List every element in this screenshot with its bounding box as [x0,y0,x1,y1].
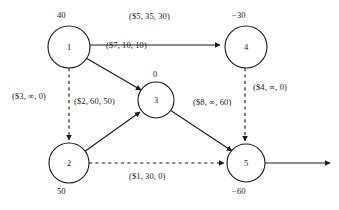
node-3-supply: 0 [153,70,157,79]
node-2[interactable]: 2 [49,143,89,183]
node-3-label: 3 [154,95,158,105]
node-4-supply: −30 [232,11,246,20]
edge-1-to-4-label: ($5, 35, 30) [129,12,170,21]
edge-3-to-5-label: ($8, ∞, 60) [193,98,231,107]
node-5-supply: −60 [232,187,246,196]
node-5-label: 5 [244,158,248,168]
node-4[interactable]: 4 [225,26,267,68]
node-1-label: 1 [67,42,71,52]
node-5[interactable]: 5 [227,144,265,182]
edge-4-to-5-label: ($4, ∞, 0) [253,83,287,92]
node-3[interactable]: 3 [138,82,174,118]
node-2-supply: 50 [57,187,66,196]
edge-2-to-5-label: ($1, 30, 0) [129,172,166,181]
edge-2-to-3-label: ($2, 60, 50) [74,97,115,106]
diagram-canvas: 1 2 3 4 5 [0,0,339,210]
edge-1-to-3 [86,58,141,90]
edge-3-to-5 [170,110,232,151]
node-2-label: 2 [67,158,71,168]
edge-1-to-3-label: ($7, 10, 10) [106,41,147,50]
node-1[interactable]: 1 [48,26,90,68]
edge-2-to-3 [84,112,140,152]
edge-1-to-2-label: ($3, ∞, 0) [12,92,46,101]
node-1-supply: 40 [57,11,66,20]
network-diagram: 1 2 3 4 5 40 50 0 −30 −60 ($5, 35, 30) (… [0,0,339,210]
